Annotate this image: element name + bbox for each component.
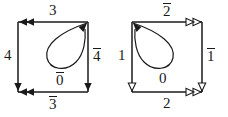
right-left-arrowhead-icon: [128, 83, 135, 91]
right-square-right-label-text: 1: [207, 48, 215, 64]
diagram-canvas: 3 4 4 3 0 2 1 1 2 0: [0, 0, 228, 117]
left-square-loop-label: 0: [56, 72, 64, 88]
right-square-bottom-label: 2: [163, 96, 171, 111]
left-bottom-arrowhead-1-icon: [19, 88, 27, 95]
right-square-left-label: 1: [118, 48, 126, 63]
right-square-left-label-text: 1: [118, 47, 126, 63]
left-top-arrowhead-2-icon: [26, 18, 34, 25]
left-loop-edge: [47, 23, 87, 68]
left-square-group: [14, 18, 91, 95]
left-square-bottom-label: 3: [49, 96, 57, 112]
right-square-bottom-label-text: 2: [163, 95, 171, 111]
right-square-loop-label-text: 0: [159, 70, 167, 86]
right-loop-edge: [133, 23, 173, 68]
right-right-arrowhead-icon: [198, 83, 205, 91]
left-square-top-label: 3: [49, 3, 57, 18]
left-right-arrowhead-icon: [84, 83, 91, 91]
left-square-right-label-text: 4: [93, 48, 101, 64]
diagram-vector-layer: [0, 0, 228, 117]
left-square-right-label: 4: [93, 48, 101, 64]
left-square-bottom-label-text: 3: [49, 96, 57, 112]
right-square-loop-label: 0: [159, 71, 167, 86]
right-square-right-label: 1: [207, 48, 215, 64]
left-square-left-label-text: 4: [4, 47, 12, 63]
left-square-left-label: 4: [4, 48, 12, 63]
right-square-top-label-text: 2: [163, 3, 171, 19]
right-square-top-label: 2: [163, 3, 171, 19]
left-bottom-arrowhead-2-icon: [26, 88, 34, 95]
left-square-loop-label-text: 0: [56, 72, 64, 88]
right-square-group: [128, 18, 205, 95]
left-top-arrowhead-1-icon: [19, 18, 27, 25]
left-left-arrowhead-icon: [14, 83, 21, 91]
left-square-top-label-text: 3: [49, 2, 57, 18]
